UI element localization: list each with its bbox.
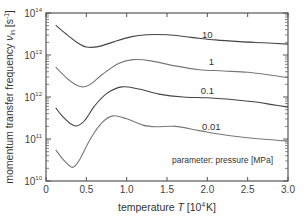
curve-pressure-0_1 (56, 87, 288, 126)
curve-pressure-10 (56, 25, 288, 47)
y-tick-label: 1011 (25, 133, 43, 145)
x-axis-ticks: 00.51.01.52.02.53.0 (43, 13, 295, 195)
y-axis-unit: [s (3, 19, 15, 30)
curve-labels: 1010.10.01 (201, 29, 221, 132)
x-tick-label: 3.0 (281, 184, 295, 195)
y-tick-label: 1014 (24, 7, 42, 19)
x-axis-unit: [10 (184, 201, 202, 213)
y-tick-label: 1012 (24, 91, 42, 103)
curve-label: 0.1 (201, 85, 214, 96)
x-axis-title-text: temperature (118, 201, 178, 213)
chart: 00.51.01.52.02.53.0 10101011101210131014… (0, 0, 305, 219)
x-axis-unit-sup: 4 (201, 201, 205, 208)
curve-pressure-1 (56, 59, 288, 86)
x-tick-label: 0 (43, 184, 49, 195)
curves (56, 25, 288, 167)
x-tick-label: 2.5 (241, 184, 255, 195)
x-axis-unit-close: K] (206, 201, 216, 213)
y-axis-unit-close: ] (3, 10, 15, 13)
curve-label: 10 (202, 29, 213, 40)
curve-label: 1 (209, 56, 214, 67)
y-tick-label: 1013 (24, 49, 42, 61)
x-tick-label: 1.0 (120, 184, 134, 195)
x-tick-label: 1.5 (160, 184, 174, 195)
y-axis-minor-ticks (46, 15, 288, 168)
y-axis-title: momentum transfer frequency νin [s-1] (3, 10, 16, 184)
y-tick-label: 1010 (24, 175, 42, 187)
curve-label: 0.01 (202, 121, 221, 132)
x-axis-title: temperature T [104K] (118, 201, 216, 213)
annotation-parameter: parameter: pressure [MPa] (172, 155, 273, 165)
y-axis-title-text: momentum transfer frequency (3, 41, 15, 184)
x-tick-label: 2.0 (200, 184, 214, 195)
x-tick-label: 0.5 (79, 184, 93, 195)
